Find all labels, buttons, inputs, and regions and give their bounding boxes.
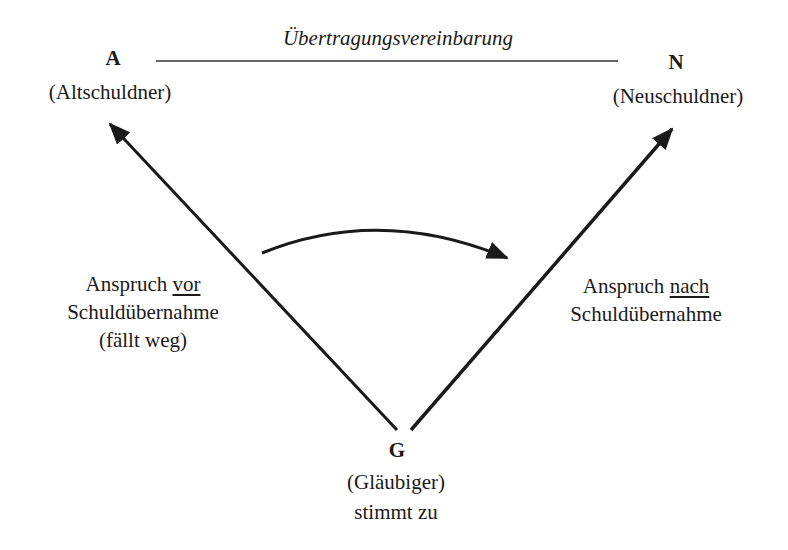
curved-transfer-arrow [262,230,507,258]
left-claim-emphasis: vor [172,272,200,296]
node-a-role: (Altschuldner) [49,80,171,104]
right-claim-emphasis: nach [670,274,710,298]
node-a-letter: A [105,46,120,70]
left-claim-line2: Schuldübernahme [67,298,219,326]
right-claim-line1: Anspruch nach [570,272,722,300]
node-g-note: stimmt zu [354,500,437,524]
node-n-role: (Neuschuldner) [613,84,744,108]
left-claim-line1: Anspruch vor [67,270,219,298]
left-claim-line3: (fällt weg) [67,326,219,354]
debt-assumption-diagram: Übertragungsvereinbarung A (Altschuldner… [0,0,788,550]
right-claim-label: Anspruch nach Schuldübernahme [570,272,722,328]
left-claim-label: Anspruch vor Schuldübernahme (fällt weg) [67,270,219,354]
right-claim-prefix: Anspruch [583,274,670,298]
node-g-role: (Gläubiger) [347,470,445,494]
right-claim-line2: Schuldübernahme [570,300,722,328]
node-g-letter: G [389,438,405,462]
agreement-label: Übertragungsvereinbarung [283,26,513,50]
left-claim-prefix: Anspruch [86,272,173,296]
node-n-letter: N [668,50,683,74]
